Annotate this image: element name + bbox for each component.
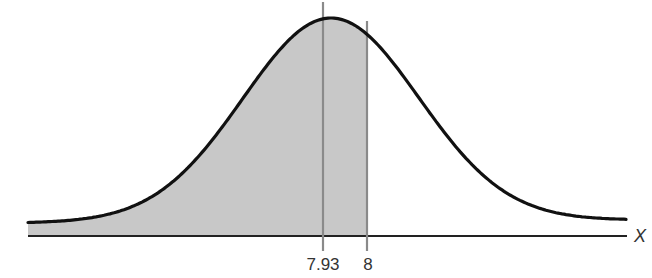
tick-label-mean: 7.93	[306, 255, 339, 274]
normal-curve-chart: 7.93 8 X	[0, 0, 652, 278]
shaded-area	[28, 18, 626, 236]
tick-label-eight: 8	[363, 255, 372, 274]
x-axis-label: X	[633, 226, 647, 246]
